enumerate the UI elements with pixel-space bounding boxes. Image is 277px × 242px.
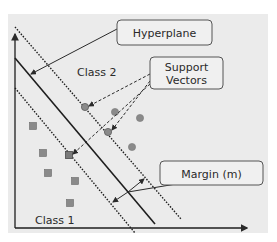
class1-label: Class 1: [35, 214, 74, 227]
class1-point: [40, 150, 47, 157]
svm-diagram: Hyperplane Support Vectors Margin (m) Cl…: [0, 0, 277, 242]
class1-point: [67, 200, 74, 207]
class2-point: [128, 143, 135, 150]
class1-point: [66, 152, 73, 159]
plot-background: [8, 14, 268, 233]
class2-point: [136, 114, 143, 121]
class1-point: [72, 178, 79, 185]
support-vectors-label-line2: Vectors: [166, 74, 207, 87]
class2-point: [111, 108, 118, 115]
class1-point: [30, 123, 37, 130]
support-vectors-label-line1: Support: [165, 61, 209, 74]
class2-label: Class 2: [77, 66, 116, 79]
class2-point: [81, 103, 88, 110]
margin-label: Margin (m): [181, 168, 241, 181]
hyperplane-label: Hyperplane: [133, 27, 197, 40]
class2-point: [104, 128, 111, 135]
class1-point: [45, 170, 52, 177]
